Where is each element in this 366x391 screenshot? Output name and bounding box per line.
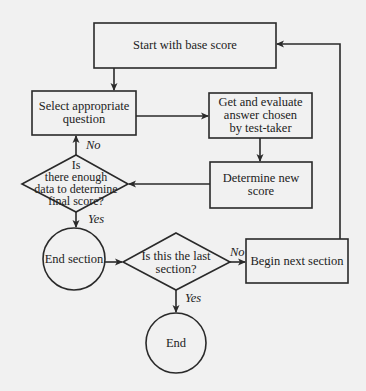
- enough-no-label: No: [86, 138, 101, 153]
- enough-data-label: Is there enough data to determine final …: [26, 157, 126, 209]
- last-no-label: No: [230, 245, 245, 260]
- select-question-label: Select appropriate question: [32, 91, 136, 135]
- arrow-next-to-start-loop: [277, 44, 340, 239]
- end-section-label: End section: [40, 250, 108, 268]
- next-section-label: Begin next section: [246, 239, 348, 283]
- determine-score-label: Determine new score: [210, 162, 312, 208]
- flowchart: Start with base score Select appropriate…: [0, 0, 366, 391]
- last-yes-label: Yes: [185, 291, 201, 306]
- evaluate-answer-label: Get and evaluate answer chosen by test-t…: [209, 93, 312, 138]
- enough-yes-label: Yes: [88, 212, 104, 227]
- last-section-label: Is this the last section?: [128, 248, 224, 278]
- start-label: Start with base score: [94, 23, 276, 68]
- end-label: End: [146, 334, 206, 352]
